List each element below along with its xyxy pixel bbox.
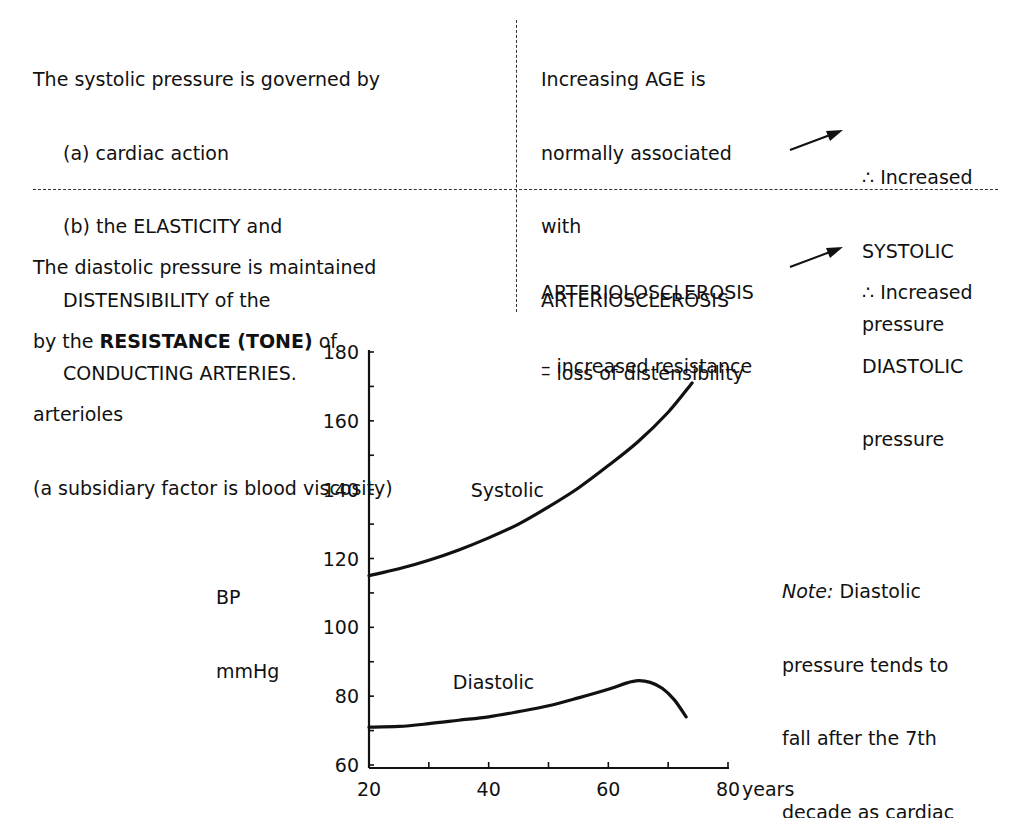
x-tick-label: 40 bbox=[477, 778, 501, 800]
y-tick-label: 120 bbox=[323, 548, 359, 570]
note-line-3: fall after the 7th bbox=[782, 726, 954, 751]
y-tick-label: 60 bbox=[335, 754, 359, 776]
y-tick-label: 160 bbox=[323, 410, 359, 432]
note-text: Note: Diastolic pressure tends to fall a… bbox=[782, 530, 954, 818]
y-axis-title-line-2: mmHg bbox=[216, 659, 279, 684]
x-tick-label: 80 bbox=[716, 778, 740, 800]
note-line-1-rest: Diastolic bbox=[833, 580, 921, 602]
x-tick-label: 60 bbox=[596, 778, 620, 800]
y-axis-title: BP mmHg bbox=[216, 536, 279, 708]
y-axis-title-line-1: BP bbox=[216, 585, 279, 610]
note-line-4: decade as cardiac bbox=[782, 800, 954, 818]
y-tick-label: 80 bbox=[335, 685, 359, 707]
y-tick-label: 140 bbox=[323, 479, 359, 501]
x-tick-label: 20 bbox=[357, 778, 381, 800]
y-tick-label: 180 bbox=[323, 341, 359, 363]
systolic-curve-label: Systolic bbox=[471, 479, 544, 501]
diastolic-curve-label: Diastolic bbox=[453, 671, 535, 693]
y-tick-label: 100 bbox=[323, 616, 359, 638]
note-line-1: Note: Diastolic bbox=[782, 579, 954, 604]
note-line-2: pressure tends to bbox=[782, 653, 954, 678]
note-label: Note: bbox=[782, 580, 833, 602]
